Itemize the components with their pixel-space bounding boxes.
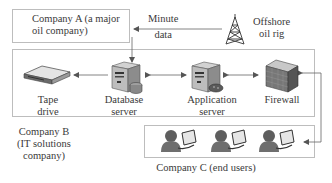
user-workstation-icon bbox=[258, 128, 298, 154]
firewall-icon bbox=[262, 58, 302, 94]
application-server-icon bbox=[190, 60, 226, 94]
tape-drive-icon bbox=[22, 64, 72, 86]
database-server-icon bbox=[110, 60, 146, 94]
user-workstation-icon bbox=[210, 128, 250, 154]
radio-tower-icon bbox=[224, 13, 246, 45]
user-workstation-icon bbox=[160, 128, 200, 154]
